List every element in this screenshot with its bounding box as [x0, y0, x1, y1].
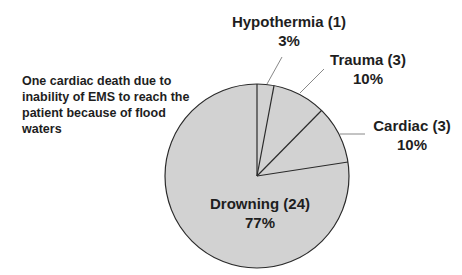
slice-percent: 10%	[318, 69, 418, 88]
slice-percent: 3%	[229, 31, 349, 50]
label-drowning: Drowning (24) 77%	[200, 194, 320, 232]
slice-label: Drowning (24)	[200, 194, 320, 213]
slice-label: Trauma (3)	[318, 50, 418, 69]
slice-percent: 77%	[200, 213, 320, 232]
slice-label: Hypothermia (1)	[229, 12, 349, 31]
label-trauma: Trauma (3) 10%	[318, 50, 418, 88]
slice-percent: 10%	[364, 135, 460, 154]
annotation-note: One cardiac death due to inability of EM…	[22, 73, 192, 137]
label-cardiac: Cardiac (3) 10%	[364, 116, 460, 154]
label-hypothermia: Hypothermia (1) 3%	[229, 12, 349, 50]
leader-line-hypothermia	[267, 57, 282, 84]
slice-label: Cardiac (3)	[364, 116, 460, 135]
